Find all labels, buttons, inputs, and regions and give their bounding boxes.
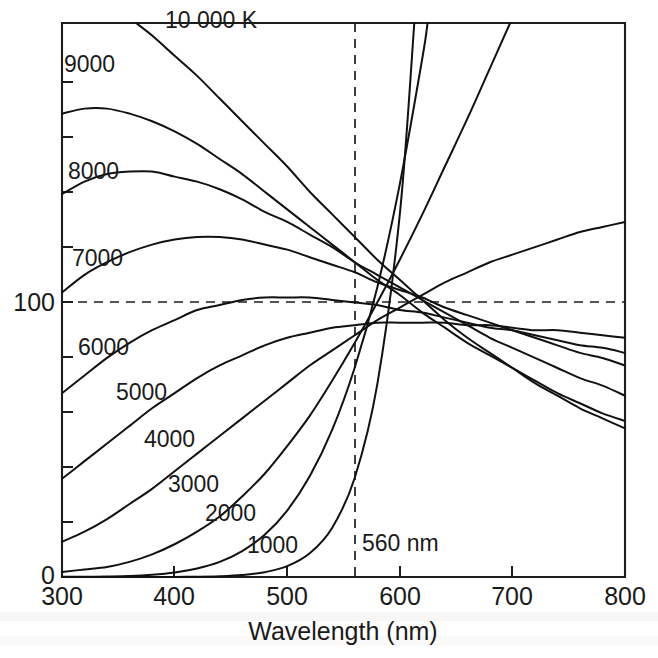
y-tick-label-100: 100 <box>13 288 55 316</box>
spectral-power-distribution-chart: 300 400 500 600 700 800 100 0 Wavelength… <box>0 0 658 658</box>
x-tick-label-400: 400 <box>153 582 195 610</box>
chart-figure: 300 400 500 600 700 800 100 0 Wavelength… <box>0 0 658 658</box>
annotation-560nm: 560 nm <box>362 530 439 556</box>
curve-label-2000: 2000 <box>205 500 256 526</box>
curve-label-10000k: 10 000 K <box>165 7 258 33</box>
x-tick-label-600: 600 <box>379 582 421 610</box>
curve-label-9000: 9000 <box>64 51 115 77</box>
y-tick-label-0: 0 <box>41 561 55 589</box>
curve-9000k <box>62 108 625 421</box>
curve-group <box>62 23 625 577</box>
x-tick-label-700: 700 <box>491 582 533 610</box>
curve-label-7000: 7000 <box>72 245 123 271</box>
curve-label-1000: 1000 <box>247 532 298 558</box>
curve-label-5000: 5000 <box>116 379 167 405</box>
x-tick-label-800: 800 <box>604 582 646 610</box>
x-axis-title: Wavelength (nm) <box>248 617 437 645</box>
curve-label-4000: 4000 <box>144 426 195 452</box>
curve-label-6000: 6000 <box>78 334 129 360</box>
y-axis-ticks <box>62 82 73 577</box>
curve-label-8000: 8000 <box>68 158 119 184</box>
curve-label-3000: 3000 <box>168 471 219 497</box>
x-tick-label-500: 500 <box>266 582 308 610</box>
